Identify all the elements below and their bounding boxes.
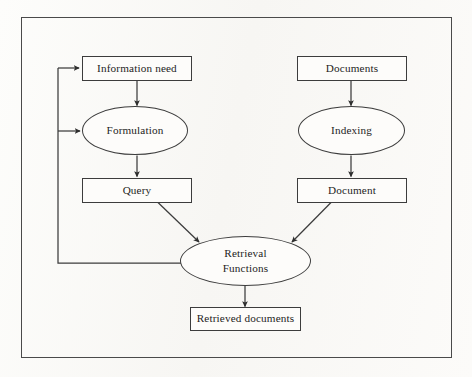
node-query-label: Query bbox=[123, 183, 152, 198]
diagram-page: Information need Formulation Query Docum… bbox=[0, 0, 472, 377]
node-information-need[interactable]: Information need bbox=[82, 56, 192, 81]
edge-feedback-loop-trunk bbox=[58, 68, 181, 263]
node-retrieval-functions[interactable]: Retrieval Functions bbox=[180, 236, 311, 286]
node-document-label: Document bbox=[328, 183, 376, 198]
node-information-need-label: Information need bbox=[97, 61, 177, 76]
node-retrieval-functions-label-line1: Retrieval bbox=[224, 246, 266, 261]
edge-query-to-retrieval-functions bbox=[158, 203, 199, 243]
edge-document-to-retrieval-functions bbox=[292, 203, 331, 243]
node-documents-label: Documents bbox=[326, 61, 378, 76]
node-retrieved-documents-label: Retrieved documents bbox=[197, 311, 295, 326]
node-documents[interactable]: Documents bbox=[297, 56, 407, 81]
node-query[interactable]: Query bbox=[82, 178, 192, 203]
node-document[interactable]: Document bbox=[297, 178, 407, 203]
node-indexing[interactable]: Indexing bbox=[298, 106, 405, 155]
node-formulation-label: Formulation bbox=[107, 123, 164, 138]
node-indexing-label: Indexing bbox=[331, 123, 372, 138]
node-retrieved-documents[interactable]: Retrieved documents bbox=[190, 307, 301, 331]
node-retrieval-functions-label-line2: Functions bbox=[223, 261, 268, 276]
node-formulation[interactable]: Formulation bbox=[82, 106, 188, 155]
